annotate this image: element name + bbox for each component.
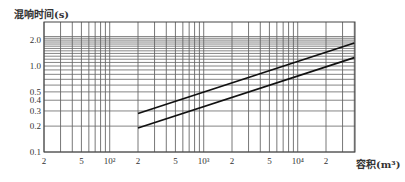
- x-tick-label: 2: [324, 156, 329, 166]
- y-tick-label: 0.4: [30, 95, 42, 105]
- x-tick-label: 10⁴: [292, 156, 304, 166]
- x-tick-label: 5: [267, 156, 272, 166]
- x-tick-label: 10²: [104, 156, 116, 166]
- y-tick-label: 1.0: [30, 61, 42, 71]
- vertical-grid: [44, 22, 354, 152]
- y-tick-label: 0.1: [30, 147, 41, 157]
- x-tick-label: 10³: [198, 156, 210, 166]
- series-line-2: [138, 58, 354, 128]
- x-tick-label: 2: [230, 156, 235, 166]
- x-tick-label: 5: [79, 156, 84, 166]
- reverberation-time-chart: 2510²2510³2510⁴2 2.01.00.50.40.30.20.1: [0, 0, 405, 182]
- y-axis-ticks: 2.01.00.50.40.30.20.1: [30, 35, 42, 157]
- x-tick-label: 5: [173, 156, 178, 166]
- y-tick-label: 0.2: [30, 121, 41, 131]
- data-series: [138, 43, 354, 128]
- y-tick-label: 0.3: [30, 106, 42, 116]
- x-axis-ticks: 2510²2510³2510⁴2: [42, 156, 329, 166]
- y-tick-label: 2.0: [30, 35, 42, 45]
- x-tick-label: 2: [136, 156, 141, 166]
- x-tick-label: 2: [42, 156, 47, 166]
